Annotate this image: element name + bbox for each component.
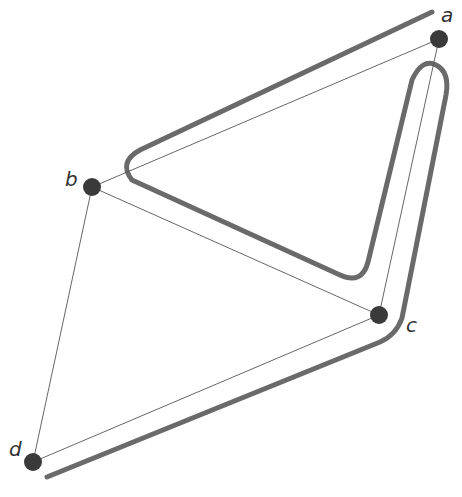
node-a [430,30,448,48]
label-c: c [406,313,417,337]
edge-b-c [92,187,379,315]
edge-b-d [33,187,92,462]
label-a: a [441,3,453,27]
label-d: d [9,437,22,461]
node-d [24,453,42,471]
edge-c-d [33,315,379,462]
label-b: b [65,167,78,191]
edge-a-b [92,39,439,187]
graph-diagram: a b c d [0,0,462,497]
node-c [370,306,388,324]
walk-path [47,12,447,477]
node-b [83,178,101,196]
